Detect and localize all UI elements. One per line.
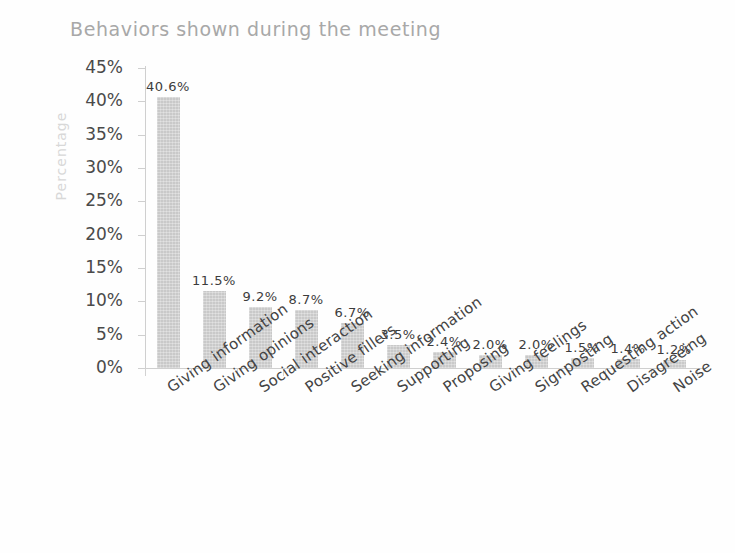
y-axis-tick: 25% [0, 201, 145, 202]
y-axis-tick-label: 5% [96, 324, 123, 344]
y-axis-tick-label: 25% [85, 190, 123, 210]
y-axis-tick: 10% [0, 301, 145, 302]
y-axis-tick-label: 45% [85, 57, 123, 77]
bar-slot[interactable]: 1.4% [605, 68, 651, 368]
y-axis-tick: 30% [0, 168, 145, 169]
bar-slot[interactable]: 3.5% [375, 68, 421, 368]
chart-title: Behaviors shown during the meeting [70, 18, 441, 40]
bar-slot[interactable]: 2.0% [513, 68, 559, 368]
y-axis-tick-mark [138, 68, 145, 69]
y-axis-tick-label: 10% [85, 290, 123, 310]
bar-slot[interactable]: 2.0% [467, 68, 513, 368]
y-axis-tick-mark [138, 235, 145, 236]
y-axis-tick-mark [138, 368, 145, 369]
y-axis-tick-label: 15% [85, 257, 123, 277]
y-axis-tick-label: 40% [85, 90, 123, 110]
y-axis-tick-label: 30% [85, 157, 123, 177]
y-axis-tick-mark [138, 201, 145, 202]
y-axis-tick-mark [138, 101, 145, 102]
y-axis-tick-mark [138, 268, 145, 269]
y-axis-tick: 40% [0, 101, 145, 102]
y-axis-tick-mark [138, 168, 145, 169]
y-axis-tick-mark [138, 135, 145, 136]
x-axis-tick-mark [145, 368, 146, 376]
y-axis-tick-label: 0% [96, 357, 123, 377]
bar-slot[interactable]: 40.6% [145, 68, 191, 368]
y-axis-tick-label: 20% [85, 224, 123, 244]
y-axis-tick-mark [138, 301, 145, 302]
chart-page: Behaviors shown during the meeting Perce… [0, 0, 735, 553]
y-axis-tick-label: 35% [85, 124, 123, 144]
y-axis-tick: 45% [0, 68, 145, 69]
y-axis-tick: 35% [0, 135, 145, 136]
y-axis-tick: 0% [0, 368, 145, 369]
y-axis-tick-mark [138, 335, 145, 336]
bar[interactable] [157, 97, 180, 368]
y-axis-tick: 5% [0, 335, 145, 336]
plot-area: 40.6%11.5%9.2%8.7%6.7%3.5%2.4%2.0%2.0%1.… [145, 68, 705, 368]
y-axis-tick: 15% [0, 268, 145, 269]
bar-slot[interactable]: 11.5% [191, 68, 237, 368]
y-axis-tick: 20% [0, 235, 145, 236]
